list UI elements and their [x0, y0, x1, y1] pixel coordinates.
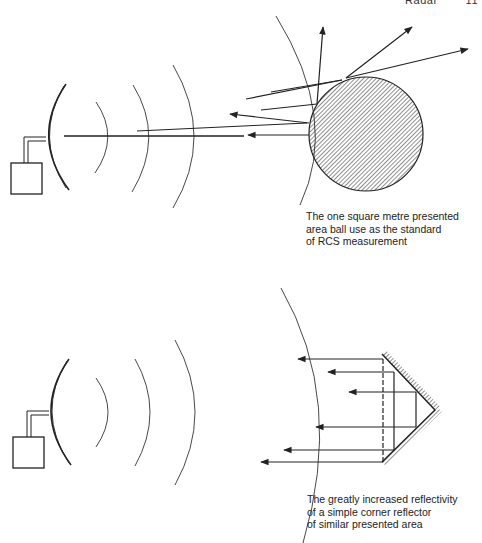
return-ray-2	[230, 114, 309, 123]
caption-corner-reflector: The greatly increased reflectivity of a …	[307, 493, 458, 531]
figure-sphere	[11, 16, 468, 208]
reflector-surface	[382, 354, 435, 462]
reflector-hatching	[384, 352, 440, 464]
scatter-ray-up	[317, 27, 323, 104]
sphere-target	[309, 77, 423, 191]
wavefront-2	[132, 85, 149, 192]
wavefront-4	[276, 16, 315, 205]
wavefront-2	[135, 359, 150, 466]
radar-transmitter-bottom	[13, 359, 71, 468]
wavefront-3	[175, 340, 195, 485]
wavefront-1	[96, 378, 108, 447]
corner-reflector	[382, 352, 440, 464]
wavefront-1	[95, 102, 108, 173]
waveguide-feed	[27, 411, 49, 437]
waveguide-feed	[24, 137, 46, 163]
reflected-rays	[261, 359, 416, 462]
caption-sphere: The one square metre presented area ball…	[306, 210, 459, 248]
transmitter-box-icon	[11, 163, 42, 194]
wavefronts-bottom	[96, 288, 320, 543]
transmitter-box-icon	[13, 437, 44, 468]
wavefronts-top	[95, 16, 315, 208]
radar-diagram	[0, 0, 482, 543]
radar-transmitter-top	[11, 84, 69, 194]
